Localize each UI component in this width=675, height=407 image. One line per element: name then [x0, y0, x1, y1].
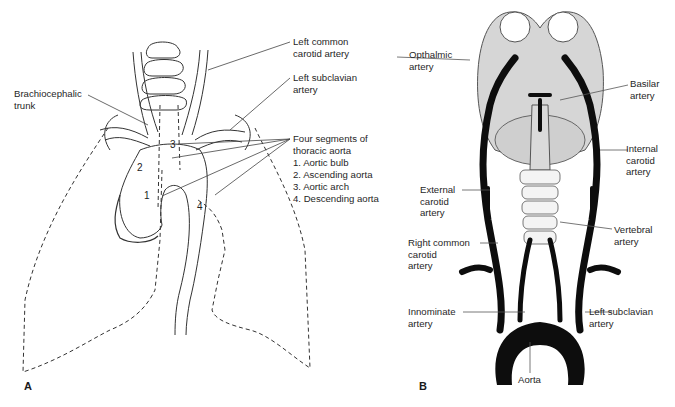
label-external-carotid-artery: External carotid artery	[420, 184, 455, 219]
aortic-arch	[120, 150, 190, 335]
label-vertebral-artery: Vertebral artery	[614, 224, 652, 247]
label-segment-1: 1. Aortic bulb	[293, 157, 348, 169]
label-segment-4: 4. Descending aorta	[293, 193, 379, 205]
label-segment-2: 2. Ascending aorta	[293, 169, 372, 181]
left-subclavian	[195, 130, 245, 150]
label-four-segments-title: Four segments of thoracic aorta	[293, 133, 368, 156]
panel-b-drawing	[462, 12, 618, 385]
label-aorta: Aorta	[518, 374, 541, 386]
segment-number-3: 3	[170, 139, 176, 150]
cervical-vertebrae	[140, 42, 186, 110]
leaders-four-segments	[162, 139, 290, 196]
label-right-common-carotid-artery: Right common carotid artery	[408, 237, 470, 272]
label-left-subclavian-artery-b: Left subclavian artery	[589, 306, 653, 329]
leader-left-common-carotid	[208, 42, 290, 70]
label-internal-carotid-artery: Internal carotid artery	[626, 143, 658, 178]
label-left-subclavian-artery-a: Left subclavian artery	[293, 72, 357, 95]
panel-letter-a: A	[24, 380, 32, 392]
label-basilar-artery: Basilar artery	[630, 78, 659, 101]
cervical-vertebrae-b	[520, 170, 560, 244]
leader-left-subclavian	[230, 78, 290, 130]
panel-letter-b: B	[419, 380, 427, 392]
right-eye-globe	[548, 12, 578, 42]
label-opthalmic-artery: Opthalmic artery	[409, 49, 452, 72]
label-innominate-artery: Innominate artery	[408, 306, 455, 329]
label-brachiocephalic-trunk: Brachiocephalic trunk	[14, 88, 82, 111]
left-carotid	[182, 50, 208, 135]
right-subclavian	[100, 128, 150, 146]
segment-number-4: 4	[197, 201, 203, 212]
segment-number-2: 2	[137, 162, 143, 173]
label-segment-3: 3. Aortic arch	[293, 181, 349, 193]
label-left-common-carotid-artery: Left common carotid artery	[293, 36, 349, 59]
left-eye-globe	[500, 12, 530, 42]
segment-number-1: 1	[144, 190, 150, 201]
